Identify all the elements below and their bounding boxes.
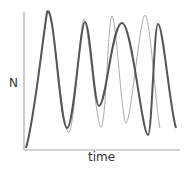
x-axis-label: time [88, 150, 115, 164]
chart-canvas [0, 0, 186, 170]
y-axis-label: N [9, 76, 18, 90]
line-chart: N time [0, 0, 186, 170]
